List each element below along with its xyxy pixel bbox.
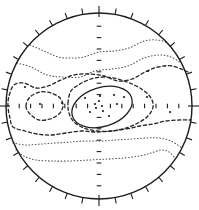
scatter-dot — [123, 96, 125, 98]
chart-background — [0, 0, 199, 210]
pole-figure-chart — [0, 0, 199, 210]
scatter-dot — [102, 110, 104, 112]
scatter-dot — [89, 111, 91, 113]
scatter-dot — [84, 97, 86, 99]
scatter-dot — [113, 94, 115, 96]
pole-figure-panel — [0, 0, 199, 210]
scatter-dot — [39, 103, 41, 105]
scatter-dot — [98, 100, 100, 102]
scatter-dot — [147, 70, 149, 72]
scatter-dot — [94, 103, 96, 105]
scatter-dot — [61, 102, 63, 104]
scatter-dot — [169, 111, 171, 113]
scatter-dot — [146, 96, 148, 98]
scatter-dot — [101, 105, 103, 107]
scatter-dot — [24, 86, 26, 88]
scatter-dot — [95, 107, 97, 109]
scatter-dot — [99, 95, 101, 97]
scatter-dot — [108, 115, 110, 117]
scatter-dot — [116, 103, 118, 105]
